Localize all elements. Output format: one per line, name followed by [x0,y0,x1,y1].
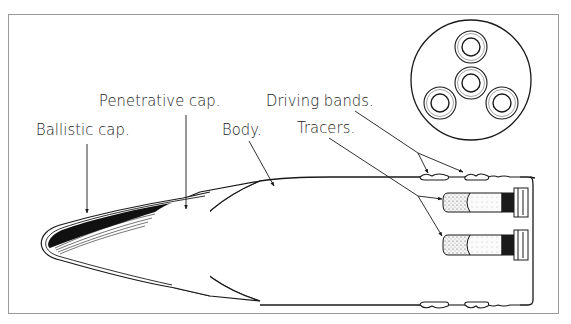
tracer-lower [443,230,528,260]
label-ballistic-cap: Ballistic cap. [36,120,130,139]
label-driving-bands: Driving bands. [266,91,374,110]
base-view [411,20,531,140]
leader-body [249,141,274,186]
leader-tracers [329,138,418,196]
label-penetrative-cap: Penetrative cap. [99,91,221,110]
ballistic-cap [41,192,210,296]
driving-bands-top [420,174,520,180]
driving-bands-bottom [420,302,520,308]
label-tracers: Tracers. [297,118,355,137]
label-body: Body. [222,120,262,139]
tracer-upper [443,188,528,217]
leader-driving-band-1 [355,111,418,153]
shell-diagram [0,0,571,324]
